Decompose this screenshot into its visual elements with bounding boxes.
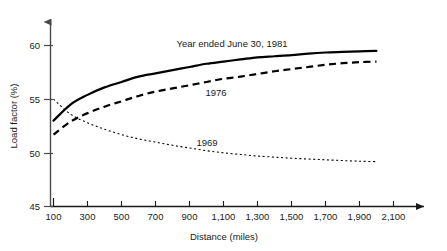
x-tick-label-900: 900 bbox=[182, 211, 198, 222]
line-chart: 60 55 50 45 100 300 500 700 900 1,100 bbox=[0, 0, 447, 251]
x-tick-label-100: 100 bbox=[46, 211, 62, 222]
series-line-1981 bbox=[54, 51, 377, 121]
y-axis-ticks bbox=[44, 46, 53, 207]
x-axis-ticks bbox=[54, 198, 394, 207]
series-annotations: Year ended June 30, 1981 1976 1969 bbox=[176, 38, 287, 148]
y-tick-label-55: 55 bbox=[29, 94, 40, 105]
x-tick-label-700: 700 bbox=[148, 211, 164, 222]
x-tick-label-1300: 1,300 bbox=[246, 211, 270, 222]
x-tick-label-1700: 1,700 bbox=[314, 211, 338, 222]
axes-group bbox=[51, 22, 425, 207]
y-axis-tick-labels: 60 55 50 45 bbox=[29, 40, 40, 212]
x-tick-label-1900: 1,900 bbox=[348, 211, 372, 222]
x-tick-label-1500: 1,500 bbox=[280, 211, 304, 222]
x-tick-label-500: 500 bbox=[114, 211, 130, 222]
y-axis-title: Load factor (%) bbox=[8, 84, 19, 149]
series-label-1976: 1976 bbox=[205, 87, 226, 98]
series-label-1969: 1969 bbox=[196, 137, 217, 148]
y-tick-label-45: 45 bbox=[29, 201, 40, 212]
x-axis-title: Distance (miles) bbox=[190, 231, 258, 242]
x-tick-label-2100: 2,100 bbox=[382, 211, 406, 222]
series-line-1969 bbox=[54, 99, 377, 161]
x-tick-label-300: 300 bbox=[80, 211, 96, 222]
x-axis-tick-labels: 100 300 500 700 900 1,100 1,300 1,500 1,… bbox=[46, 211, 406, 222]
y-tick-label-50: 50 bbox=[29, 148, 40, 159]
series-line-1976 bbox=[54, 62, 377, 135]
series-label-1981: Year ended June 30, 1981 bbox=[176, 38, 287, 49]
x-tick-label-1100: 1,100 bbox=[212, 211, 236, 222]
chart-container: 60 55 50 45 100 300 500 700 900 1,100 bbox=[0, 0, 447, 251]
y-tick-label-60: 60 bbox=[29, 40, 40, 51]
